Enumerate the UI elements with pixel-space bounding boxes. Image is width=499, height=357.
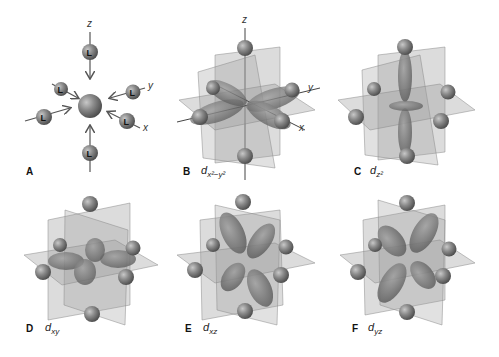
panel-d-dxy: D dxy	[0, 175, 165, 357]
orbital-label-e: dxz	[203, 321, 217, 336]
axis-label-y: y	[148, 80, 153, 91]
axis-label-y: y	[308, 82, 313, 93]
orbital-label-d: dxy	[45, 321, 59, 336]
svg-text:L: L	[87, 149, 93, 159]
svg-text:L: L	[41, 113, 47, 123]
ligand-bottom: L	[82, 145, 98, 161]
panel-label-e: E	[185, 323, 192, 334]
ligand-top: L	[82, 44, 98, 60]
svg-text:L: L	[58, 85, 64, 95]
dx2-y2-orbital-diagram	[165, 0, 330, 180]
axis-label-z: z	[87, 18, 92, 29]
panel-label-d: D	[26, 323, 33, 334]
panel-f-dyz: F dyz	[330, 175, 499, 357]
svg-text:L: L	[130, 88, 136, 98]
ligand-back-left: L	[54, 82, 68, 96]
axis-label-z: z	[242, 14, 247, 25]
panel-c-dz2: C dz²	[330, 0, 499, 180]
metal-ion-sphere	[78, 94, 102, 118]
ligand-y: L	[126, 85, 141, 100]
octahedral-ligand-diagram: L L L L L L	[0, 0, 165, 175]
ligand-x: L	[119, 113, 135, 129]
orbital-label-f: dyz	[368, 321, 382, 336]
panel-a-ligand-approach: L L L L L L z y x A	[0, 0, 165, 175]
panel-e-dxz: E dxz	[165, 175, 330, 357]
dxy-orbital-diagram	[0, 175, 165, 357]
dz2-orbital-diagram	[330, 0, 499, 180]
svg-text:L: L	[87, 48, 93, 58]
axis-label-x: x	[143, 122, 148, 133]
ligand-front-left: L	[36, 109, 52, 125]
panel-b-dx2-y2: z y x B dx²−y²	[165, 0, 330, 180]
panel-label-f: F	[352, 323, 358, 334]
svg-text:L: L	[124, 117, 130, 127]
axis-label-x: x	[299, 122, 304, 133]
